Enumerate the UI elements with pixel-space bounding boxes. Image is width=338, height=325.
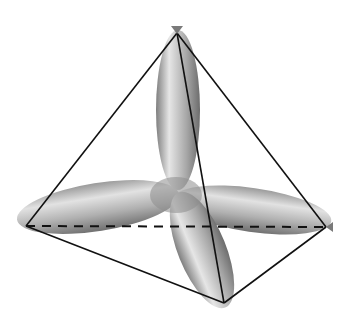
orbital-center — [150, 177, 202, 213]
edge-right-bottom — [224, 227, 326, 303]
orbital-lobes — [13, 30, 334, 316]
sp3-tetrahedron-diagram — [0, 0, 338, 325]
diagram-canvas — [0, 0, 338, 325]
